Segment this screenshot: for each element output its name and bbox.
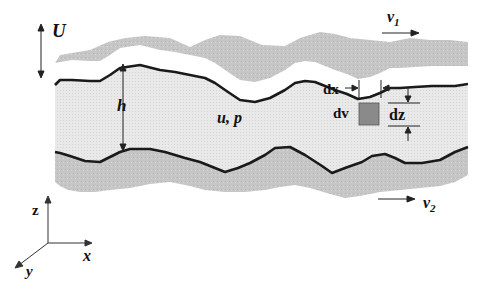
u-velocity-arrow (38, 24, 44, 78)
label-v1: v1 (387, 9, 400, 28)
label-U: U (52, 21, 66, 40)
label-v2: v2 (423, 195, 436, 214)
v1-arrow (382, 30, 419, 36)
label-h: h (117, 97, 126, 114)
v2-arrow (378, 196, 415, 202)
label-u-p: u, p (217, 110, 242, 126)
film-diagram (0, 0, 485, 292)
label-dz: dz (389, 107, 405, 123)
label-dv: dv (333, 106, 349, 121)
coordinate-axes (15, 196, 92, 268)
axis-x-label: x (83, 248, 91, 264)
axis-y-label: y (26, 264, 33, 279)
volume-element (359, 103, 379, 125)
label-dx: dx (323, 82, 339, 97)
axis-z-label: z (32, 203, 39, 218)
